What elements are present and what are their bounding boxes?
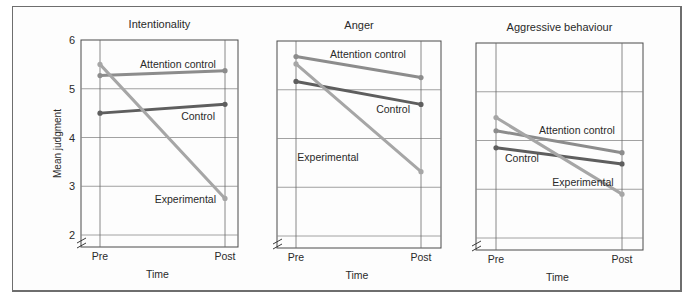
data-point-experimental <box>493 115 498 120</box>
series-line-control <box>296 81 421 104</box>
series-label-attention-control: Attention control <box>140 58 216 70</box>
y-tick-label: 4 <box>69 132 75 144</box>
data-point-control <box>493 145 498 150</box>
series-line-experimental <box>100 64 225 198</box>
data-point-control <box>418 102 423 107</box>
series-label-experimental: Experimental <box>155 193 216 205</box>
data-point-control <box>619 161 624 166</box>
data-point-experimental <box>418 169 423 174</box>
series-line-attention-control <box>100 71 225 76</box>
x-axis-label: Time <box>146 268 169 280</box>
series-label-control: Control <box>505 152 539 164</box>
x-axis-label: Time <box>546 271 569 283</box>
x-tick-label: Pre <box>488 253 505 265</box>
data-point-control <box>97 111 102 116</box>
y-axis-label: Mean judgment <box>52 109 63 178</box>
x-tick-label: Pre <box>288 251 305 263</box>
data-point-experimental <box>293 61 298 66</box>
y-tick-label: 3 <box>69 180 75 192</box>
data-point-attention-control <box>493 128 498 133</box>
y-tick-label: 6 <box>69 34 75 46</box>
y-tick-label: 2 <box>69 229 75 241</box>
data-point-control <box>293 79 298 84</box>
data-point-experimental <box>619 192 624 197</box>
plot-area <box>277 41 441 248</box>
data-point-attention-control <box>418 75 423 80</box>
series-label-control: Control <box>376 103 410 115</box>
x-tick-label: Post <box>214 250 235 262</box>
x-tick-label: Post <box>611 253 632 265</box>
plot-area <box>476 43 643 250</box>
x-tick-label: Post <box>410 251 431 263</box>
series-label-experimental: Experimental <box>552 176 613 188</box>
data-point-attention-control <box>97 73 102 78</box>
chart-svg: Intentionality23456Mean judgmentPrePostT… <box>0 0 695 303</box>
data-point-control <box>222 102 227 107</box>
data-point-attention-control <box>293 54 298 59</box>
panel-title: Intentionality <box>129 18 191 30</box>
data-point-attention-control <box>222 68 227 73</box>
series-label-attention-control: Attention control <box>539 124 615 136</box>
panel-title: Anger <box>344 19 374 31</box>
series-label-control: Control <box>181 110 215 122</box>
x-tick-label: Pre <box>92 250 109 262</box>
y-tick-label: 5 <box>69 83 75 95</box>
x-axis-label: Time <box>346 269 369 281</box>
panel-title: Aggressive behaviour <box>507 21 613 33</box>
data-point-experimental <box>222 196 227 201</box>
series-label-experimental: Experimental <box>297 151 358 163</box>
data-point-experimental <box>97 62 102 67</box>
data-point-attention-control <box>619 150 624 155</box>
series-label-attention-control: Attention control <box>330 48 406 60</box>
